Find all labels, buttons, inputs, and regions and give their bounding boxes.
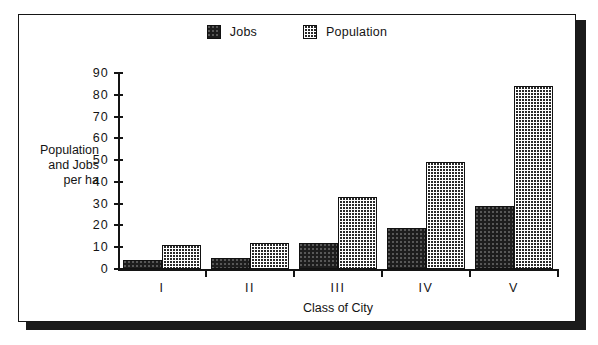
y-tick-label-70: 70 [63,111,109,124]
x-tick-I [205,269,207,277]
y-tick-label-90: 90 [63,67,109,80]
figure-frame: Jobs Population Population and Jobs per … [18,14,576,322]
y-axis-line [118,73,120,270]
y-tick-label-10: 10 [63,241,109,254]
y-tick-label-20: 20 [63,219,109,232]
x-tick-label-III: III [308,281,368,295]
bar-population-class-II [250,243,289,269]
plot-area: Population and Jobs per ha 0102030405060… [19,15,575,321]
y-tick-label-0: 0 [63,263,109,276]
x-tick-label-V: V [484,281,544,295]
bar-jobs-class-IV [387,228,426,269]
y-tick-label-30: 30 [63,198,109,211]
y-tick-60 [114,137,123,139]
y-tick-label-80: 80 [63,89,109,102]
bar-population-class-III [338,197,377,269]
y-tick-30 [114,203,123,205]
bar-jobs-class-V [475,206,514,269]
y-tick-40 [114,181,123,183]
bar-jobs-class-II [211,258,250,269]
y-tick-0 [114,268,123,270]
screenshot-canvas: Jobs Population Population and Jobs per … [0,0,598,345]
bar-population-class-I [162,245,201,269]
x-tick-label-II: II [220,281,280,295]
y-tick-label-60: 60 [63,132,109,145]
y-tick-80 [114,94,123,96]
x-tick-III [381,269,383,277]
x-tick-label-I: I [132,281,192,295]
y-tick-label-50: 50 [63,154,109,167]
bar-jobs-class-I [123,260,162,269]
y-tick-50 [114,159,123,161]
x-tick-IV [469,269,471,277]
x-tick-II [293,269,295,277]
y-tick-20 [114,224,123,226]
bar-jobs-class-III [299,243,338,269]
bar-population-class-V [514,86,553,269]
x-tick-label-IV: IV [396,281,456,295]
x-tick-V [557,269,559,277]
y-tick-90 [114,72,123,74]
y-tick-70 [114,116,123,118]
x-axis-line [118,269,558,271]
y-tick-label-40: 40 [63,176,109,189]
y-tick-10 [114,246,123,248]
bar-population-class-IV [426,162,465,269]
x-axis-title: Class of City [118,301,558,315]
